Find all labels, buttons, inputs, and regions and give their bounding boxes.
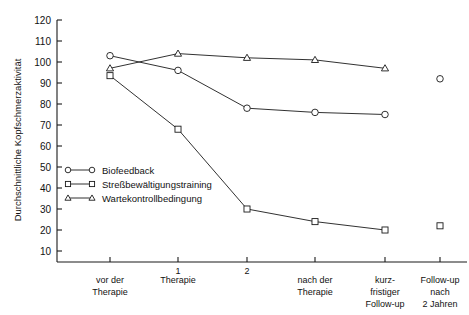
y-tick-label: 110	[35, 36, 51, 47]
y-tick-label: 10	[40, 246, 52, 257]
y-axis-title-text: Durchschnittliche Kopfschmerzaktivität	[12, 58, 23, 221]
y-tick-label: 80	[40, 99, 52, 110]
headache-activity-line-chart: Durchschnittliche Kopfschmerzaktivität 1…	[0, 0, 469, 315]
data-series-layer	[106, 50, 443, 233]
data-point-square-marker	[382, 227, 388, 233]
x-axis-category-label: Follow-up	[365, 299, 404, 309]
chart-canvas: Durchschnittliche Kopfschmerzaktivität 1…	[0, 0, 469, 315]
data-point-square-marker	[437, 223, 443, 229]
x-axis-category-labels: vor derTherapie1Therapie2nach derTherapi…	[92, 266, 459, 309]
x-axis-category-label: Therapie	[92, 287, 128, 297]
axes-group	[57, 20, 467, 262]
y-tick-label: 70	[40, 120, 52, 131]
series-triangle	[106, 50, 388, 71]
legend-label: Biofeedback	[102, 165, 155, 176]
data-point-square-marker	[244, 206, 250, 212]
data-point-triangle-marker	[174, 50, 181, 56]
y-axis-title: Durchschnittliche Kopfschmerzaktivität	[12, 58, 23, 221]
data-point-circle-marker	[312, 109, 319, 116]
legend-label: Streßbewältigungstraining	[102, 179, 212, 190]
x-axis-category-label: kurz-	[375, 275, 395, 285]
x-axis-ticks	[110, 257, 440, 262]
x-axis-category-label: nach der	[297, 275, 332, 285]
x-axis-category-label: nach	[430, 287, 450, 297]
data-point-circle-marker	[65, 167, 71, 173]
y-tick-label: 60	[40, 141, 52, 152]
data-point-circle-marker	[244, 105, 251, 112]
data-point-square-marker	[312, 219, 318, 225]
data-point-square-marker	[65, 181, 70, 186]
y-tick-label: 20	[40, 225, 52, 236]
data-point-circle-marker	[382, 111, 389, 118]
data-point-circle-marker	[437, 76, 444, 83]
x-axis-category-label: 2 Jahren	[422, 299, 457, 309]
x-axis-category-label: vor der	[96, 275, 124, 285]
series-circle	[107, 52, 444, 117]
data-point-circle-marker	[175, 67, 182, 74]
x-axis-category-label: Therapie	[297, 287, 333, 297]
y-tick-label: 120	[34, 15, 51, 26]
data-point-square-marker	[107, 73, 113, 79]
chart-legend: BiofeedbackStreßbewältigungstrainingWart…	[65, 165, 212, 204]
data-point-circle-marker	[89, 167, 95, 173]
data-point-square-marker	[89, 181, 94, 186]
x-axis-category-label: Therapie	[160, 275, 196, 285]
y-tick-label: 100	[34, 57, 51, 68]
data-point-circle-marker	[107, 52, 114, 59]
series-square	[107, 73, 443, 233]
y-axis-ticks: 120110100908070605040302010	[34, 15, 62, 257]
x-axis-phase-number: 2	[244, 266, 249, 276]
data-point-square-marker	[175, 126, 181, 132]
x-axis-category-label: fristiger	[370, 287, 400, 297]
y-tick-label: 90	[40, 78, 52, 89]
y-tick-label: 30	[40, 204, 52, 215]
x-axis-category-label: Follow-up	[420, 275, 459, 285]
y-tick-label: 40	[40, 183, 52, 194]
y-tick-label: 50	[40, 162, 52, 173]
legend-label: Wartekontrollbedingung	[102, 193, 202, 204]
